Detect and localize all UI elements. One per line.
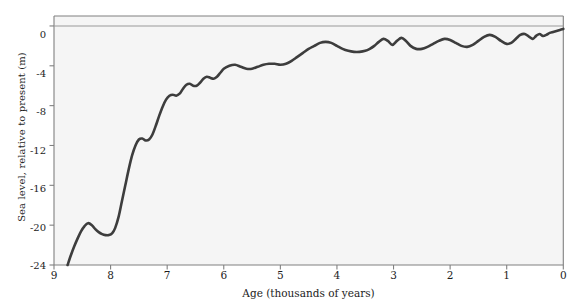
plot-background [54,16,563,265]
plot-area [0,0,578,308]
sea-level-chart-figure: Sea level, relative to present (m) 0 -4 … [0,0,578,308]
